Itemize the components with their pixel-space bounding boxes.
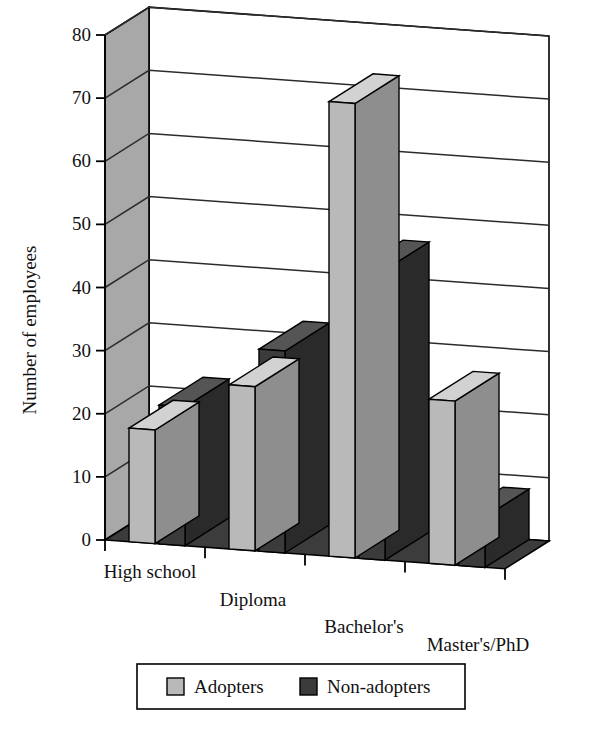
y-tick-label: 80 — [72, 24, 91, 45]
chart-legend: Adopters Non-adopters — [137, 664, 465, 709]
bar-adopters-2-side — [355, 76, 399, 558]
legend-swatch-nonadopters — [300, 678, 317, 695]
chart-canvas: Number of employees 01020304050607080 Hi… — [0, 0, 602, 735]
bar-adopters-3 — [429, 399, 455, 565]
y-axis-title: Number of employees — [19, 246, 40, 415]
bar-adopters-1 — [229, 385, 255, 551]
bar-adopters-1-side — [255, 359, 299, 551]
bar-chart-3d: Number of employees 01020304050607080 Hi… — [0, 0, 602, 735]
legend-label-nonadopters: Non-adopters — [327, 676, 430, 697]
bar-adopters-2 — [329, 102, 355, 558]
x-axis-label-0: High school — [104, 561, 196, 582]
y-tick-label: 60 — [72, 150, 91, 171]
y-tick-label: 20 — [72, 403, 91, 424]
x-axis-label-2: Bachelor's — [324, 616, 403, 637]
legend-label-adopters: Adopters — [194, 676, 264, 697]
x-axis-label-3: Master's/PhD — [427, 634, 530, 655]
y-tick-label: 70 — [72, 87, 91, 108]
y-tick-label: 0 — [82, 529, 92, 550]
y-tick-label: 50 — [72, 213, 91, 234]
bar-adopters-0 — [129, 428, 155, 543]
y-tick-label: 40 — [72, 277, 91, 298]
y-axis-ticks: 01020304050607080 — [72, 24, 105, 550]
y-tick-label: 30 — [72, 340, 91, 361]
y-tick-label: 10 — [72, 466, 91, 487]
x-axis-labels: High schoolDiplomaBachelor'sMaster's/PhD — [104, 561, 530, 655]
y-axis-title-text: Number of employees — [19, 246, 40, 415]
bar-adopters-3-side — [455, 373, 499, 565]
x-axis-label-1: Diploma — [220, 589, 287, 610]
legend-swatch-adopters — [167, 678, 184, 695]
